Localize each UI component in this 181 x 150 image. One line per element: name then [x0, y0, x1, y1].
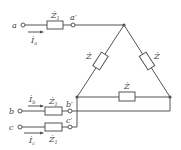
terminal-b	[18, 109, 22, 113]
label-b: b	[9, 107, 14, 116]
terminal-c-prime	[68, 125, 72, 129]
arrowhead-c	[40, 132, 44, 135]
label-z1-b: Ż1	[48, 97, 58, 107]
node-left	[75, 95, 78, 98]
resistor-z1-a	[47, 21, 63, 29]
terminal-a	[21, 23, 25, 27]
terminal-b-prime	[68, 109, 72, 113]
arrowhead-b	[40, 105, 44, 108]
terminal-c	[18, 125, 22, 129]
label-current-a: İa	[30, 36, 37, 46]
label-z-right: Ż	[153, 52, 160, 61]
circuit-diagram: a b c a′ b′ c′ Ż1 Ż1 Ż1 İa İb İc Ż Ż Ż	[0, 0, 181, 150]
node-top	[122, 23, 125, 26]
node-right	[168, 95, 171, 98]
label-z1-a: Ż1	[50, 11, 60, 21]
label-a-prime: a′	[70, 13, 77, 22]
resistor-z-right	[139, 52, 154, 70]
resistor-z1-c	[45, 123, 62, 131]
resistor-z1-b	[45, 107, 62, 115]
label-z1-c: Ż1	[48, 135, 58, 145]
label-b-prime: b′	[66, 100, 73, 109]
resistor-z-left	[93, 52, 108, 70]
label-a: a	[12, 21, 17, 30]
label-current-c: İc	[28, 136, 35, 146]
label-c: c	[9, 123, 14, 132]
label-current-b: İb	[28, 95, 35, 105]
label-z-bottom: Ż	[123, 82, 130, 91]
resistor-z-bottom	[119, 92, 135, 101]
label-c-prime: c′	[66, 116, 72, 125]
arrowhead-a	[40, 31, 44, 34]
terminal-a-prime	[71, 23, 75, 27]
label-z-left: Ż	[85, 52, 92, 61]
